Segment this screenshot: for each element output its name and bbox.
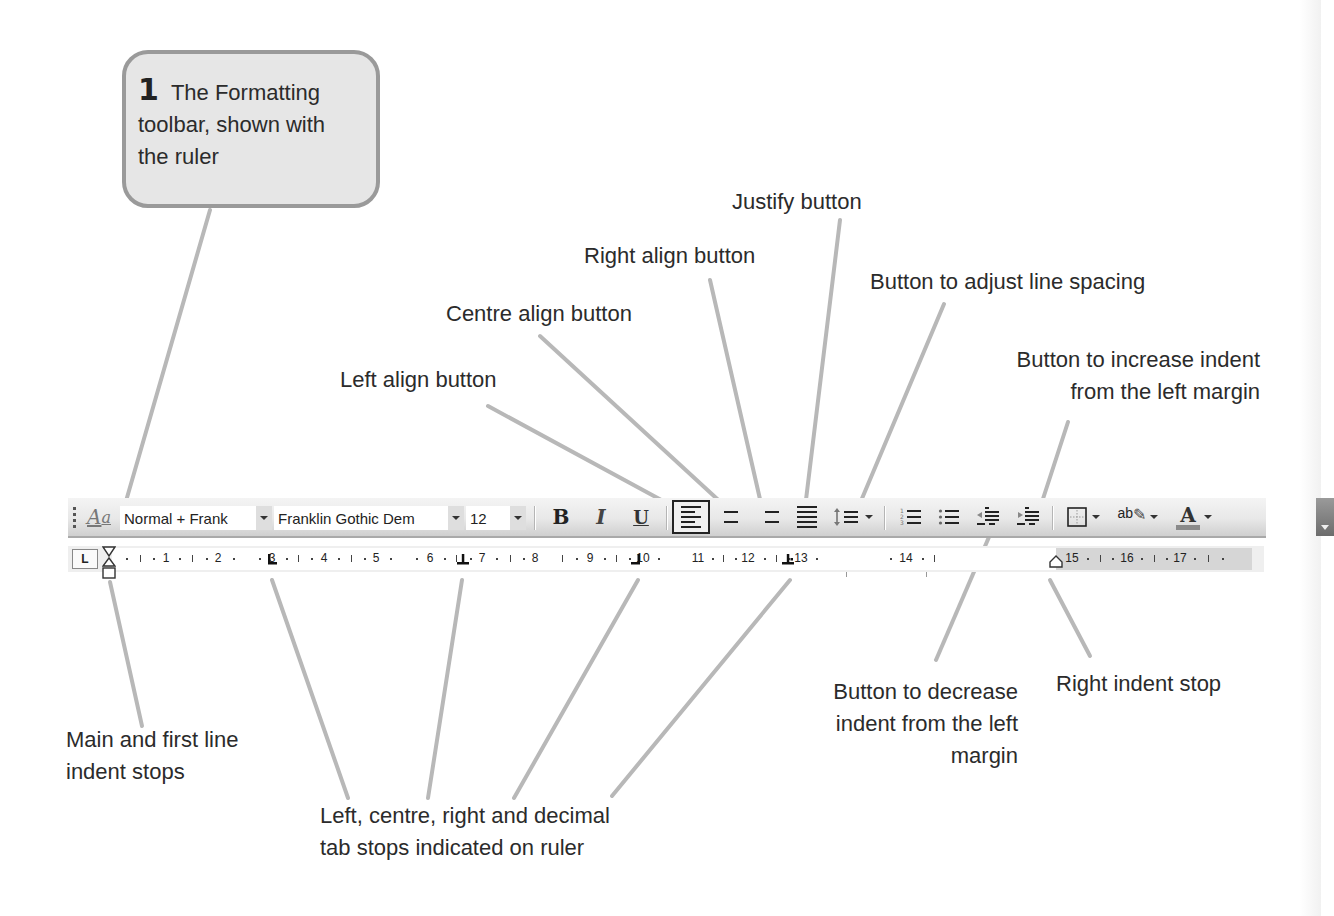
- ruler-dot: [126, 558, 128, 560]
- horizontal-ruler: L 1 2 3 4 5 6 7 8 9 10 11 12 13 14 15 16…: [68, 546, 1264, 572]
- ruler-number: 9: [587, 551, 594, 565]
- ruler-dot: [364, 558, 366, 560]
- highlight-button[interactable]: ab ✎: [1112, 498, 1164, 536]
- align-left-icon: [681, 506, 701, 528]
- increase-indent-icon: [1016, 506, 1040, 528]
- styles-and-formatting-icon[interactable]: Aa: [82, 498, 116, 536]
- ruler-tick: [926, 572, 927, 577]
- left-tab-stop[interactable]: [266, 552, 278, 566]
- ruler-number: 5: [373, 551, 380, 565]
- chevron-down-icon[interactable]: [510, 506, 526, 530]
- numbered-list-icon: 1 2 3: [900, 507, 922, 527]
- ruler-tick: [192, 555, 193, 562]
- ruler-dot: [311, 558, 313, 560]
- tab-selector-button[interactable]: L: [72, 549, 98, 569]
- ruler-dot: [1087, 558, 1089, 560]
- label-decrease-indent: Button to decrease indent from the left …: [760, 676, 1018, 772]
- toolbar-options-button[interactable]: [1316, 498, 1334, 536]
- ruler-dot: [523, 558, 525, 560]
- ruler-tick: [846, 572, 847, 577]
- ruler-dot: [658, 558, 660, 560]
- ruler-number: 13: [794, 551, 807, 565]
- borders-icon: [1066, 506, 1088, 528]
- ruler-number: 11: [692, 551, 704, 565]
- ruler-tick: [562, 555, 563, 562]
- first-line-and-hanging-indent-marker[interactable]: [102, 546, 116, 580]
- ruler-dot: [153, 558, 155, 560]
- ruler-number: 7: [479, 551, 486, 565]
- align-center-button[interactable]: [714, 498, 748, 536]
- ruler-dot: [712, 558, 714, 560]
- line-spacing-button[interactable]: [828, 498, 878, 536]
- ruler-dot: [604, 558, 606, 560]
- style-dropdown-value: Normal + Frank: [124, 510, 256, 527]
- label-decrease-indent-line-3: margin: [760, 740, 1018, 772]
- ruler-text-area: [112, 548, 1056, 570]
- decrease-indent-button[interactable]: [970, 498, 1006, 536]
- svg-text:3: 3: [900, 519, 904, 526]
- chevron-down-icon[interactable]: [448, 506, 464, 530]
- ruler-tick: [616, 555, 617, 562]
- chevron-down-icon[interactable]: [1204, 515, 1212, 519]
- ruler-dot: [496, 558, 498, 560]
- increase-indent-button[interactable]: [1010, 498, 1046, 536]
- ruler-tick: [776, 555, 777, 562]
- highlight-pen-glyph: ✎: [1133, 505, 1146, 524]
- align-right-icon: [759, 506, 779, 528]
- ruler-dot: [179, 558, 181, 560]
- right-tab-stop[interactable]: [630, 552, 642, 566]
- ruler-tick: [934, 555, 935, 562]
- page-edge: [1300, 0, 1321, 916]
- centre-tab-stop[interactable]: [457, 552, 469, 566]
- ruler-tick: [723, 555, 724, 562]
- font-color-button[interactable]: A: [1168, 498, 1220, 536]
- font-dropdown[interactable]: Franklin Gothic Dem: [274, 506, 464, 530]
- bold-button[interactable]: B: [546, 498, 576, 536]
- label-right-align: Right align button: [584, 240, 755, 272]
- style-dropdown[interactable]: Normal + Frank: [120, 506, 272, 530]
- align-right-button[interactable]: [752, 498, 786, 536]
- italic-button[interactable]: I: [586, 498, 616, 536]
- underline-button[interactable]: U: [626, 498, 656, 536]
- ruler-dot: [286, 558, 288, 560]
- ruler-number: 6: [427, 551, 434, 565]
- justify-icon: [797, 506, 817, 528]
- right-indent-marker[interactable]: [1049, 554, 1063, 568]
- bullets-button[interactable]: [932, 498, 966, 536]
- ruler-number: 8: [532, 551, 539, 565]
- label-main-indent-line-1: Main and first line: [66, 724, 238, 756]
- ruler-number: 14: [899, 551, 912, 565]
- chevron-down-icon[interactable]: [256, 506, 272, 530]
- ruler-dot: [576, 558, 578, 560]
- ruler-dot: [1141, 558, 1143, 560]
- ruler-dot: [470, 558, 472, 560]
- ruler-number: 1: [163, 551, 170, 565]
- font-color-swatch: [1176, 525, 1200, 530]
- step-callout: 1The Formatting toolbar, shown with the …: [122, 50, 380, 208]
- label-line-spacing: Button to adjust line spacing: [870, 266, 1145, 298]
- numbering-button[interactable]: 1 2 3: [894, 498, 928, 536]
- ruler-tick: [351, 555, 352, 562]
- font-size-dropdown[interactable]: 12: [466, 506, 526, 530]
- ruler-number: 4: [321, 551, 328, 565]
- label-justify: Justify button: [732, 186, 862, 218]
- ruler-dot: [764, 558, 766, 560]
- borders-button[interactable]: [1058, 498, 1108, 536]
- label-increase-indent-line-2: from the left margin: [940, 376, 1260, 408]
- chevron-down-icon[interactable]: [1150, 515, 1158, 519]
- ruler-dot: [233, 558, 235, 560]
- align-left-button[interactable]: [672, 500, 710, 534]
- ruler-tick: [298, 555, 299, 562]
- justify-button[interactable]: [790, 498, 824, 536]
- label-decrease-indent-line-2: indent from the left: [760, 708, 1018, 740]
- ruler-dot: [416, 558, 418, 560]
- callout-line-1: The Formatting: [171, 80, 320, 105]
- label-tab-stops-line-2: tab stops indicated on ruler: [320, 832, 610, 864]
- decimal-tab-stop[interactable]: [782, 552, 794, 566]
- step-number: 1: [138, 72, 159, 107]
- chevron-down-icon[interactable]: [865, 515, 873, 519]
- chevron-down-icon[interactable]: [1092, 515, 1100, 519]
- ruler-dot: [922, 558, 924, 560]
- ruler-tick: [1100, 555, 1101, 562]
- toolbar-grip-handle[interactable]: [70, 498, 78, 536]
